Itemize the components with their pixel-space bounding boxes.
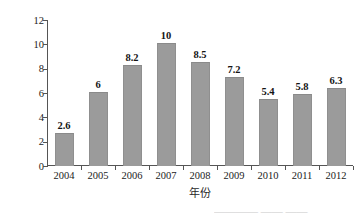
x-tick-label: 2005	[81, 169, 115, 182]
bar[interactable]	[327, 88, 346, 166]
x-tick-label: 2009	[217, 169, 251, 182]
y-tick-label: 10	[24, 39, 44, 50]
bar[interactable]	[259, 99, 278, 166]
bar[interactable]	[293, 94, 312, 166]
bar-group[interactable]: 8.2	[115, 20, 149, 166]
x-axis-title: 年份	[47, 186, 353, 200]
y-tick-label: 0	[24, 161, 44, 172]
bar[interactable]	[55, 133, 74, 166]
y-axis-tick-labels: 024681012	[24, 14, 44, 172]
bar-group[interactable]: 5.4	[251, 20, 285, 166]
y-tick-mark	[43, 20, 47, 21]
x-tick-mark	[353, 166, 354, 170]
x-tick-label: 2006	[115, 169, 149, 182]
plot-area: 2.668.2108.57.25.45.86.3	[47, 20, 353, 166]
y-tick-mark	[43, 142, 47, 143]
x-tick-label: 2004	[47, 169, 81, 182]
y-tick-mark	[43, 93, 47, 94]
bar-group[interactable]: 6	[81, 20, 115, 166]
y-tick-label: 12	[24, 15, 44, 26]
y-tick-mark	[43, 117, 47, 118]
y-tick-mark	[43, 44, 47, 45]
x-tick-label: 2007	[149, 169, 183, 182]
bar[interactable]	[225, 77, 244, 166]
bar-value-label: 2.6	[45, 120, 83, 132]
x-tick-label: 2008	[183, 169, 217, 182]
y-tick-label: 4	[24, 112, 44, 123]
bar-value-label: 6	[79, 79, 117, 91]
bar-value-label: 5.4	[249, 86, 287, 98]
bar-group[interactable]: 6.3	[319, 20, 353, 166]
bar-value-label: 10	[147, 30, 185, 42]
y-tick-label: 8	[24, 63, 44, 74]
y-tick-mark	[43, 69, 47, 70]
bottom-cut-caption: ———— —— ——	[214, 205, 358, 214]
y-tick-mark	[43, 166, 47, 167]
bar[interactable]	[157, 43, 176, 166]
x-axis-tick-labels: 200420052006200720082009201020112012	[47, 169, 353, 183]
bar-group[interactable]: 2.6	[47, 20, 81, 166]
x-tick-label: 2010	[251, 169, 285, 182]
bar-group[interactable]: 10	[149, 20, 183, 166]
bar[interactable]	[191, 62, 210, 166]
bar-value-label: 5.8	[283, 81, 321, 93]
bars-layer: 2.668.2108.57.25.45.86.3	[47, 20, 353, 166]
bar-group[interactable]: 5.8	[285, 20, 319, 166]
bar-chart: 产量（万吨） 024681012 2.668.2108.57.25.45.86.…	[0, 0, 362, 214]
bar-value-label: 8.5	[181, 49, 219, 61]
y-tick-label: 6	[24, 88, 44, 99]
bar-value-label: 8.2	[113, 52, 151, 64]
bar-value-label: 7.2	[215, 64, 253, 76]
bar-group[interactable]: 7.2	[217, 20, 251, 166]
x-tick-label: 2012	[319, 169, 353, 182]
x-tick-label: 2011	[285, 169, 319, 182]
bar-value-label: 6.3	[317, 75, 355, 87]
y-tick-label: 2	[24, 136, 44, 147]
bar[interactable]	[123, 65, 142, 166]
bar-group[interactable]: 8.5	[183, 20, 217, 166]
bar[interactable]	[89, 92, 108, 166]
